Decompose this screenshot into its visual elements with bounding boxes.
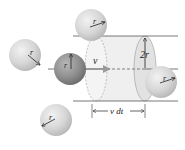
molecule-bottom-left: r bbox=[40, 104, 72, 136]
sphere bbox=[54, 53, 86, 85]
length-dimension: v dt bbox=[92, 104, 145, 118]
molecule-moving: r bbox=[54, 53, 86, 85]
molecule-left: r bbox=[9, 39, 41, 71]
sphere bbox=[145, 66, 177, 98]
collision-cylinder-diagram: 2r r r r v r r v dt bbox=[0, 0, 185, 150]
sphere bbox=[40, 104, 72, 136]
diameter-label: 2r bbox=[140, 49, 149, 60]
length-label: v dt bbox=[110, 106, 124, 116]
molecule-inside-right: r bbox=[145, 66, 177, 98]
molecule-top: r bbox=[75, 9, 107, 41]
sphere bbox=[9, 39, 41, 71]
sphere bbox=[75, 9, 107, 41]
velocity-label: v bbox=[93, 55, 98, 66]
